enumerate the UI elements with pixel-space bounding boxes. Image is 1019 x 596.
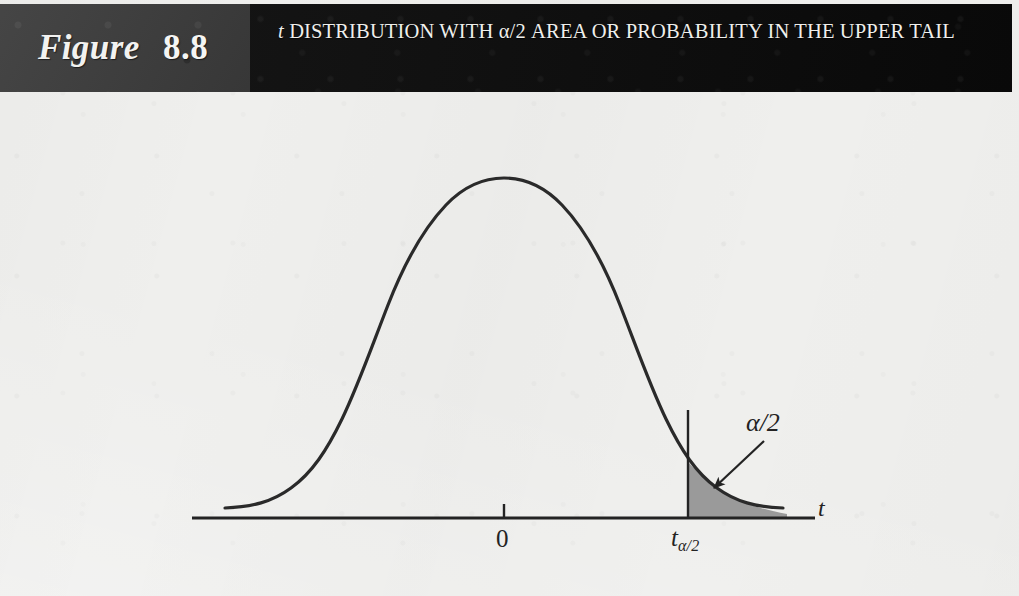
figure-title: t DISTRIBUTION WITH α/2 AREA OR PROBABIL… [278,17,978,46]
t-critical-subscript: α/2 [678,537,699,554]
axis-label-zero: 0 [496,526,509,551]
figure-header-banner: Figure 8.8 t DISTRIBUTION WITH α/2 AREA … [0,4,1019,92]
distribution-plot: 0 t tα/2 α/2 [0,92,1019,596]
alpha-annotation-arrow [714,441,764,488]
t-critical-base: t [671,524,678,551]
figure-title-band: t DISTRIBUTION WITH α/2 AREA OR PROBABIL… [250,4,1012,92]
axis-label-t-critical: tα/2 [671,525,699,554]
shaded-tail-area [688,462,787,518]
axis-label-t: t [818,496,825,520]
figure-title-rest: DISTRIBUTION WITH α/2 AREA OR PROBABILIT… [284,20,955,42]
figure-label-band: Figure 8.8 [0,4,252,92]
figure-number-text: 8.8 [163,28,208,68]
figure-label-text: Figure [38,28,140,68]
t-distribution-curve [225,178,783,508]
distribution-chart-svg [0,92,1019,596]
figure-page: Figure 8.8 t DISTRIBUTION WITH α/2 AREA … [0,0,1019,596]
alpha-over-two-annotation: α/2 [746,410,780,436]
